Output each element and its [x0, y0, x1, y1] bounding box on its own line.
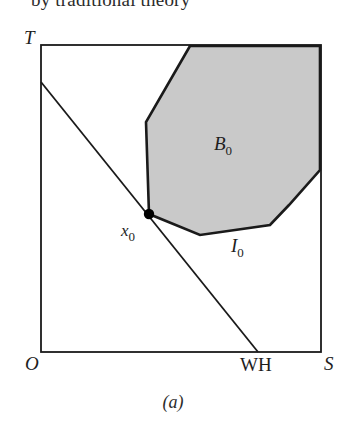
- indifference-curve-label-subscript: 0: [237, 245, 244, 260]
- equilibrium-point-label-subscript: 0: [129, 229, 136, 244]
- x-axis-tick-label-wh: WH: [240, 354, 272, 375]
- equilibrium-point-marker: [144, 209, 154, 219]
- economics-diagram: T O S WH B0 I0 x0: [0, 0, 346, 435]
- indifference-curve-label: I0: [230, 235, 244, 260]
- budget-set-label-base: B: [214, 133, 226, 154]
- figure-caption: (a): [0, 392, 346, 413]
- x-axis-right-label: S: [324, 353, 334, 374]
- budget-set-region: [146, 46, 320, 235]
- origin-label: O: [25, 353, 39, 374]
- y-axis-top-label: T: [24, 27, 36, 48]
- budget-set-label-subscript: 0: [226, 143, 233, 158]
- equilibrium-point-label: x0: [120, 221, 135, 244]
- figure-page: by traditional theory T O S WH B0 I0 x0 …: [0, 0, 346, 435]
